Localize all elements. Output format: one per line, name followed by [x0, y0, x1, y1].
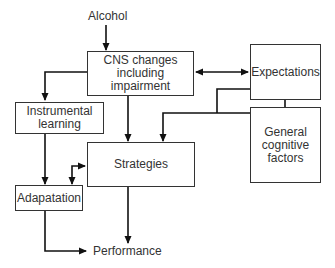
node-general-cognitive-factors: General cognitive factors [250, 107, 321, 183]
line-expectations-to-join [217, 89, 250, 113]
node-cns-changes: CNS changes including impairment [87, 51, 194, 96]
arrow-general-to-strategies [163, 113, 250, 141]
node-strategies: Strategies [87, 142, 195, 187]
arrow-cns-to-instrumental [45, 72, 87, 100]
arrow-adaptation-to-performance [45, 210, 86, 251]
node-performance: Performance [93, 244, 162, 258]
node-expectations: Expectations [250, 44, 321, 100]
node-alcohol: Alcohol [88, 9, 127, 23]
arrow-adaptation-strategies [72, 166, 85, 184]
node-instrumental-learning: Instrumental learning [15, 102, 104, 134]
node-adaptation: Adapatation [15, 185, 83, 211]
